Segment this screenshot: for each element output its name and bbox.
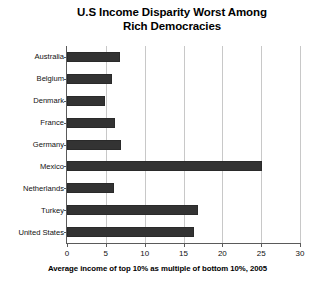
gridline-20 [222, 46, 223, 243]
bar-mexico [67, 161, 262, 171]
x-tick-label-0: 0 [52, 249, 82, 258]
category-label-denmark: Denmark [0, 96, 64, 105]
x-tick-label-15: 15 [169, 249, 199, 258]
x-tick-10 [145, 243, 146, 247]
bar-united-states [67, 227, 194, 237]
category-label-germany: Germany [0, 140, 64, 149]
category-label-mexico: Mexico [0, 162, 64, 171]
bar-germany [67, 140, 121, 150]
chart-title: U.S Income Disparity Worst Among Rich De… [48, 6, 296, 33]
bar-denmark [67, 96, 105, 106]
chart-title-line-1: U.S Income Disparity Worst Among [48, 6, 296, 20]
x-tick-label-5: 5 [91, 249, 121, 258]
plot-area: 051015202530 [67, 46, 300, 243]
bar-belgium [67, 74, 112, 84]
income-disparity-bar-chart: U.S Income Disparity Worst Among Rich De… [0, 0, 315, 283]
category-label-australia: Australia [0, 52, 64, 61]
x-tick-20 [222, 243, 223, 247]
x-tick-5 [106, 243, 107, 247]
chart-title-line-2: Rich Democracies [48, 20, 296, 34]
y-tick-2 [64, 101, 67, 102]
gridline-25 [261, 46, 262, 243]
bar-australia [67, 52, 120, 62]
x-tick-30 [300, 243, 301, 247]
x-tick-label-10: 10 [130, 249, 160, 258]
category-label-france: France [0, 118, 64, 127]
y-tick-6 [64, 188, 67, 189]
x-tick-15 [184, 243, 185, 247]
y-tick-3 [64, 123, 67, 124]
y-tick-7 [64, 210, 67, 211]
x-tick-label-20: 20 [207, 249, 237, 258]
gridline-30 [300, 46, 301, 243]
category-label-belgium: Belgium [0, 74, 64, 83]
x-tick-25 [261, 243, 262, 247]
category-label-turkey: Turkey [0, 206, 64, 215]
y-tick-4 [64, 145, 67, 146]
bar-turkey [67, 205, 198, 215]
y-tick-5 [64, 166, 67, 167]
x-axis-caption: Average income of top 10% as multiple of… [12, 264, 303, 273]
bar-france [67, 118, 115, 128]
y-tick-8 [64, 232, 67, 233]
y-tick-0 [64, 57, 67, 58]
x-tick-label-25: 25 [246, 249, 276, 258]
x-tick-label-30: 30 [285, 249, 315, 258]
bar-netherlands [67, 183, 114, 193]
y-tick-1 [64, 79, 67, 80]
category-label-netherlands: Netherlands [0, 184, 64, 193]
x-tick-0 [67, 243, 68, 247]
category-label-united-states: United States [0, 228, 64, 237]
